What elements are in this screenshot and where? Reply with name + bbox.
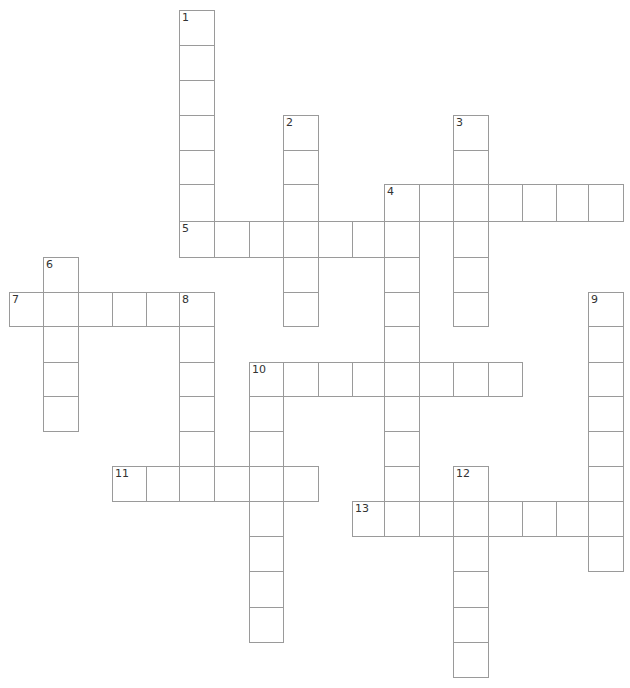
crossword-cell[interactable] bbox=[283, 292, 319, 327]
crossword-cell[interactable] bbox=[453, 257, 489, 293]
crossword-cell[interactable] bbox=[384, 466, 420, 502]
crossword-cell[interactable] bbox=[352, 362, 385, 397]
crossword-cell[interactable] bbox=[453, 292, 489, 327]
crossword-cell[interactable] bbox=[384, 431, 420, 467]
crossword-cell[interactable]: 10 bbox=[249, 362, 284, 397]
crossword-cell[interactable] bbox=[283, 466, 319, 502]
crossword-cell[interactable] bbox=[588, 501, 624, 537]
crossword-cell[interactable] bbox=[419, 501, 454, 537]
crossword-cell[interactable] bbox=[78, 292, 113, 327]
crossword-cell[interactable] bbox=[588, 431, 624, 467]
crossword-cell[interactable] bbox=[249, 607, 284, 643]
crossword-cell[interactable] bbox=[283, 257, 319, 293]
crossword-cell[interactable] bbox=[588, 536, 624, 572]
crossword-cell[interactable] bbox=[453, 362, 489, 397]
crossword-cell[interactable] bbox=[214, 466, 250, 502]
crossword-cell[interactable] bbox=[419, 362, 454, 397]
crossword-cell[interactable] bbox=[453, 184, 489, 222]
cell-letter bbox=[420, 191, 453, 221]
crossword-cell[interactable] bbox=[318, 221, 353, 258]
crossword-cell[interactable] bbox=[43, 292, 79, 327]
crossword-cell[interactable] bbox=[146, 292, 180, 327]
crossword-cell[interactable] bbox=[384, 362, 420, 397]
cell-letter bbox=[113, 473, 146, 501]
crossword-cell[interactable] bbox=[283, 362, 319, 397]
crossword-cell[interactable] bbox=[43, 362, 79, 397]
crossword-cell[interactable] bbox=[488, 362, 523, 397]
crossword-cell[interactable] bbox=[214, 221, 250, 258]
cell-letter bbox=[385, 473, 419, 501]
crossword-cell[interactable]: 4 bbox=[384, 184, 420, 222]
crossword-cell[interactable]: 8 bbox=[179, 292, 215, 327]
crossword-cell[interactable]: 9 bbox=[588, 292, 624, 327]
cell-letter bbox=[454, 508, 488, 536]
crossword-cell[interactable]: 11 bbox=[112, 466, 147, 502]
crossword-cell[interactable]: 7 bbox=[9, 292, 44, 327]
crossword-cell[interactable] bbox=[43, 326, 79, 363]
crossword-cell[interactable] bbox=[488, 184, 523, 222]
crossword-cell[interactable] bbox=[453, 642, 489, 678]
crossword-cell[interactable] bbox=[43, 396, 79, 432]
cell-letter bbox=[420, 369, 453, 396]
crossword-cell[interactable] bbox=[179, 431, 215, 467]
crossword-cell[interactable] bbox=[179, 80, 215, 116]
crossword-cell[interactable]: 5 bbox=[179, 221, 215, 258]
crossword-cell[interactable] bbox=[179, 326, 215, 363]
crossword-cell[interactable]: 3 bbox=[453, 115, 489, 151]
crossword-cell[interactable] bbox=[318, 362, 353, 397]
crossword-cell[interactable] bbox=[179, 362, 215, 397]
crossword-cell[interactable]: 2 bbox=[283, 115, 319, 151]
cell-letter bbox=[589, 473, 623, 501]
crossword-cell[interactable] bbox=[249, 501, 284, 537]
crossword-cell[interactable] bbox=[419, 184, 454, 222]
crossword-cell[interactable] bbox=[384, 396, 420, 432]
cell-letter bbox=[284, 264, 318, 292]
crossword-cell[interactable] bbox=[588, 184, 624, 222]
cell-letter bbox=[454, 578, 488, 607]
crossword-cell[interactable] bbox=[249, 221, 284, 258]
crossword-cell[interactable] bbox=[179, 150, 215, 185]
crossword-cell[interactable] bbox=[588, 396, 624, 432]
crossword-cell[interactable] bbox=[249, 466, 284, 502]
crossword-cell[interactable] bbox=[249, 571, 284, 608]
crossword-cell[interactable] bbox=[453, 571, 489, 608]
crossword-cell[interactable] bbox=[488, 501, 523, 537]
crossword-cell[interactable] bbox=[588, 466, 624, 502]
crossword-cell[interactable] bbox=[384, 326, 420, 363]
crossword-cell[interactable] bbox=[556, 184, 589, 222]
crossword-cell[interactable] bbox=[283, 221, 319, 258]
crossword-cell[interactable] bbox=[249, 536, 284, 572]
crossword-cell[interactable] bbox=[283, 184, 319, 222]
crossword-cell[interactable] bbox=[146, 466, 180, 502]
crossword-cell[interactable] bbox=[384, 501, 420, 537]
crossword-cell[interactable]: 13 bbox=[352, 501, 385, 537]
crossword-cell[interactable] bbox=[522, 501, 557, 537]
crossword-cell[interactable] bbox=[588, 362, 624, 397]
crossword-cell[interactable] bbox=[249, 396, 284, 432]
crossword-cell[interactable] bbox=[453, 536, 489, 572]
crossword-cell[interactable]: 6 bbox=[43, 257, 79, 293]
crossword-cell[interactable] bbox=[522, 184, 557, 222]
crossword-cell[interactable] bbox=[384, 257, 420, 293]
crossword-cell[interactable] bbox=[453, 150, 489, 185]
crossword-cell[interactable] bbox=[384, 221, 420, 258]
crossword-cell[interactable] bbox=[179, 45, 215, 81]
crossword-cell[interactable] bbox=[453, 607, 489, 643]
crossword-cell[interactable] bbox=[179, 466, 215, 502]
crossword-cell[interactable] bbox=[352, 221, 385, 258]
cell-letter bbox=[147, 473, 179, 501]
crossword-cell[interactable] bbox=[249, 431, 284, 467]
crossword-cell[interactable] bbox=[556, 501, 589, 537]
crossword-cell[interactable] bbox=[179, 115, 215, 151]
crossword-cell[interactable] bbox=[453, 221, 489, 258]
crossword-cell[interactable] bbox=[453, 501, 489, 537]
crossword-cell[interactable] bbox=[112, 292, 147, 327]
crossword-cell[interactable] bbox=[283, 150, 319, 185]
crossword-cell[interactable] bbox=[384, 292, 420, 327]
crossword-cell[interactable]: 12 bbox=[453, 466, 489, 502]
crossword-cell[interactable] bbox=[588, 326, 624, 363]
crossword-cell[interactable] bbox=[179, 184, 215, 222]
cell-letter bbox=[215, 473, 249, 501]
crossword-cell[interactable] bbox=[179, 396, 215, 432]
crossword-cell[interactable]: 1 bbox=[179, 10, 215, 46]
